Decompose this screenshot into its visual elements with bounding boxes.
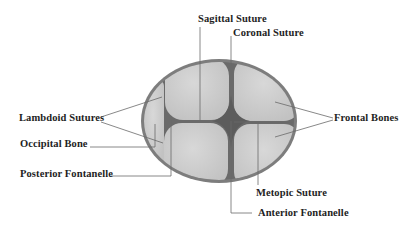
label-posterior-fontanelle: Posterior Fontanelle: [20, 168, 113, 179]
parietal-bone-upper: [165, 58, 229, 120]
label-metopic-suture: Metopic Suture: [256, 187, 327, 198]
label-sagittal-suture: Sagittal Suture: [198, 13, 267, 24]
label-anterior-fontanelle: Anterior Fontanelle: [258, 207, 349, 218]
skull-diagram: Sagittal Suture Coronal Suture Lambdoid …: [0, 0, 411, 229]
label-coronal-suture: Coronal Suture: [233, 27, 304, 38]
label-occipital-bone: Occipital Bone: [20, 138, 88, 149]
label-frontal-bones: Frontal Bones: [334, 112, 398, 123]
label-lambdoid-sutures: Lambdoid Sutures: [19, 112, 104, 123]
frontal-bone-upper: [234, 58, 300, 121]
